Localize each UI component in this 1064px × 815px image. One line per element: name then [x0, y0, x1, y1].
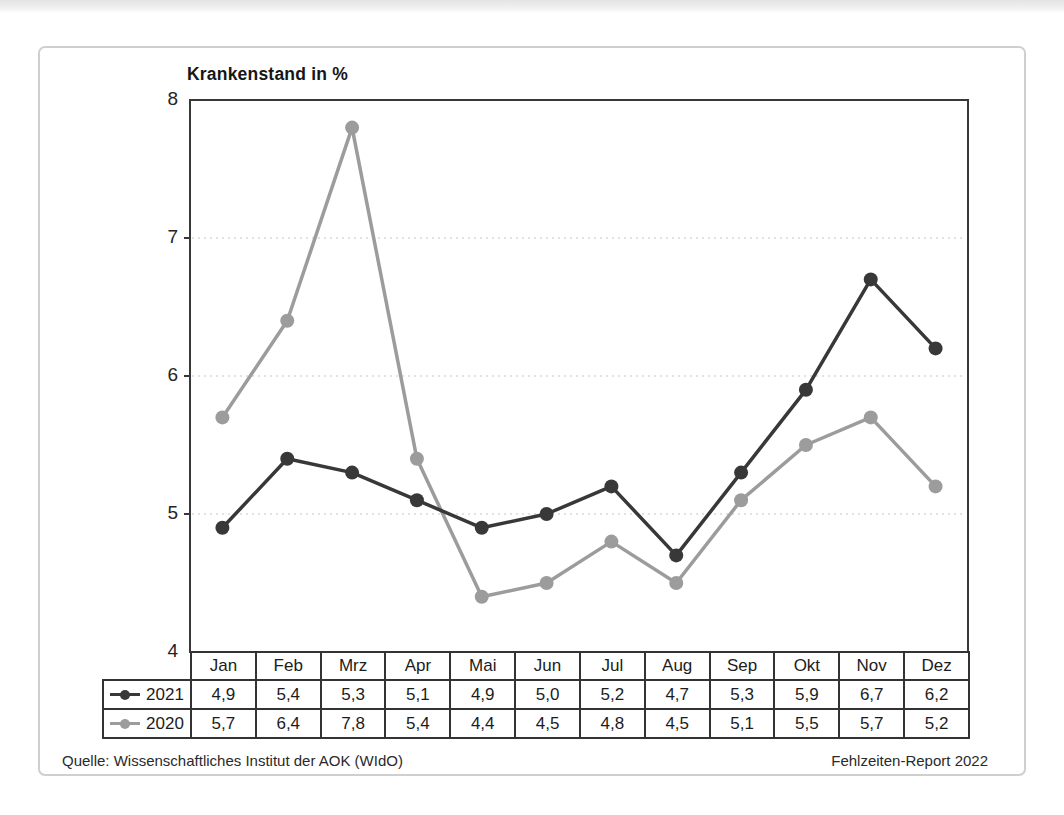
source-caption: Quelle: Wissenschaftliches Institut der …	[62, 752, 403, 769]
month-header: Feb	[256, 652, 321, 680]
month-header: Jun	[515, 652, 580, 680]
value-cell: 5,7	[839, 709, 904, 738]
value-cell: 5,3	[710, 680, 775, 709]
value-cell: 5,4	[385, 709, 450, 738]
figure-panel: Krankenstand in % 8 7 6 5 4 Jan Feb Mrz …	[38, 46, 1026, 776]
series-2021-marker-icon	[110, 693, 140, 697]
value-cell: 4,5	[645, 709, 710, 738]
value-cell: 5,2	[904, 709, 969, 738]
series-2020-dot-icon	[120, 719, 130, 729]
page-top-strip	[0, 0, 1064, 13]
month-header: Apr	[385, 652, 450, 680]
month-header: Dez	[904, 652, 969, 680]
value-cell: 5,4	[256, 680, 321, 709]
value-cell: 5,0	[515, 680, 580, 709]
value-cell: 5,1	[710, 709, 775, 738]
value-cell: 6,2	[904, 680, 969, 709]
series-2020-label: 2020	[146, 714, 184, 734]
value-cell: 5,1	[385, 680, 450, 709]
month-header: Nov	[839, 652, 904, 680]
value-cell: 7,8	[321, 709, 386, 738]
series-2021-dot-icon	[120, 690, 130, 700]
series-2020-marker-icon	[110, 722, 140, 726]
value-cell: 5,2	[580, 680, 645, 709]
value-cell: 4,8	[580, 709, 645, 738]
report-caption: Fehlzeiten-Report 2022	[831, 752, 988, 769]
y-axis-tick-label: 7	[126, 226, 178, 248]
data-table: Jan Feb Mrz Apr Mai Jun Jul Aug Sep Okt …	[102, 651, 970, 739]
table-corner-cell	[103, 652, 191, 680]
value-cell: 4,7	[645, 680, 710, 709]
value-cell: 6,4	[256, 709, 321, 738]
month-header: Jan	[191, 652, 256, 680]
legend-cell-2020: 2020	[103, 709, 191, 738]
value-cell: 5,7	[191, 709, 256, 738]
month-header: Mai	[450, 652, 515, 680]
legend-cell-2021: 2021	[103, 680, 191, 709]
value-cell: 4,9	[450, 680, 515, 709]
value-cell: 5,5	[774, 709, 839, 738]
table-row-2020: 2020 5,7 6,4 7,8 5,4 4,4 4,5 4,8 4,5 5,1…	[103, 709, 969, 738]
value-cell: 5,9	[774, 680, 839, 709]
y-axis-tick-label: 6	[126, 364, 178, 386]
month-header: Sep	[710, 652, 775, 680]
y-axis-tick-label: 5	[126, 502, 178, 524]
value-cell: 4,4	[450, 709, 515, 738]
y-axis-tick-label: 8	[126, 88, 178, 110]
month-header: Okt	[774, 652, 839, 680]
month-header: Jul	[580, 652, 645, 680]
value-cell: 5,3	[321, 680, 386, 709]
table-row-2021: 2021 4,9 5,4 5,3 5,1 4,9 5,0 5,2 4,7 5,3…	[103, 680, 969, 709]
month-header: Mrz	[321, 652, 386, 680]
table-row-months: Jan Feb Mrz Apr Mai Jun Jul Aug Sep Okt …	[103, 652, 969, 680]
value-cell: 4,9	[191, 680, 256, 709]
value-cell: 6,7	[839, 680, 904, 709]
series-2021-label: 2021	[146, 685, 184, 705]
value-cell: 4,5	[515, 709, 580, 738]
month-header: Aug	[645, 652, 710, 680]
